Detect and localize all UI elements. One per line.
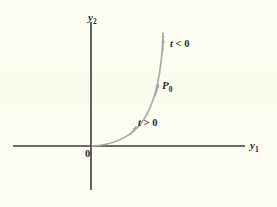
y2-axis-label-sub: 2 [93,17,97,26]
plot-canvas [0,0,277,207]
t-negative-variable: t [170,38,173,49]
y1-axis-label-sub: 1 [255,145,259,154]
t-negative-relation: < 0 [176,38,190,49]
origin-label: 0 [85,149,90,160]
y2-axis-label: y2 [88,12,97,26]
direction-arrow-upper [162,39,165,52]
t-negative-label: t < 0 [170,39,189,50]
curve-endpoint-arrow [161,34,164,38]
point-p0-main: P [162,79,169,91]
trajectory-curve [92,33,163,146]
phase-plane-figure: y2 y1 t < 0 P0 t > 0 0 [0,0,277,207]
t-positive-relation: > 0 [144,117,158,128]
t-positive-label: t > 0 [138,118,157,129]
y1-axis-label: y1 [250,140,259,154]
t-positive-variable: t [138,117,141,128]
point-p0-label: P0 [162,80,172,94]
point-p0-sub: 0 [169,85,173,94]
